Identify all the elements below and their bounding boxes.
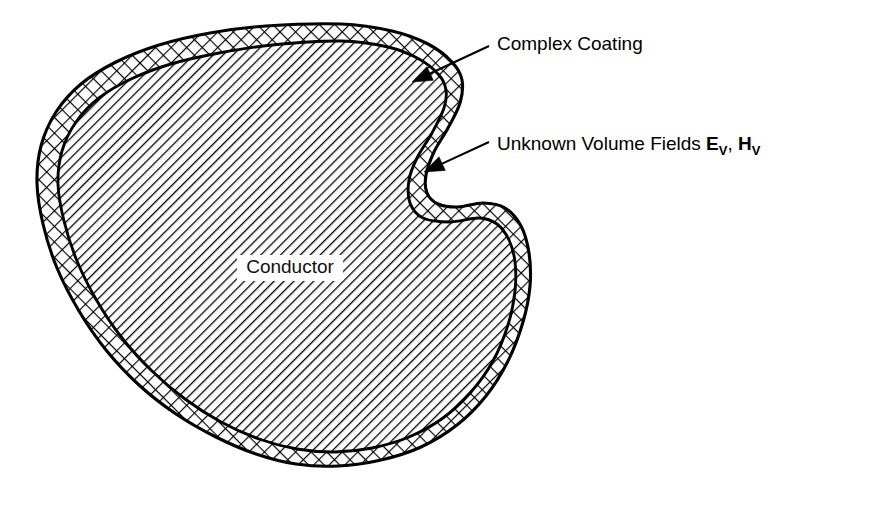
figure-root: Conductor Complex Coating Unknown Volume… xyxy=(0,0,879,507)
label-unknown-volume-fields: Unknown Volume Fields EV, HV xyxy=(497,133,761,158)
conductor-label: Conductor xyxy=(246,256,334,277)
annotation-unknown-volume-fields: Unknown Volume Fields EV, HV xyxy=(424,133,761,172)
diagram-canvas: Conductor Complex Coating Unknown Volume… xyxy=(0,0,879,507)
label-complex-coating: Complex Coating xyxy=(497,33,643,54)
conductor-label-group: Conductor xyxy=(237,255,343,281)
leader-line-unknown-volume-fields xyxy=(442,142,489,164)
